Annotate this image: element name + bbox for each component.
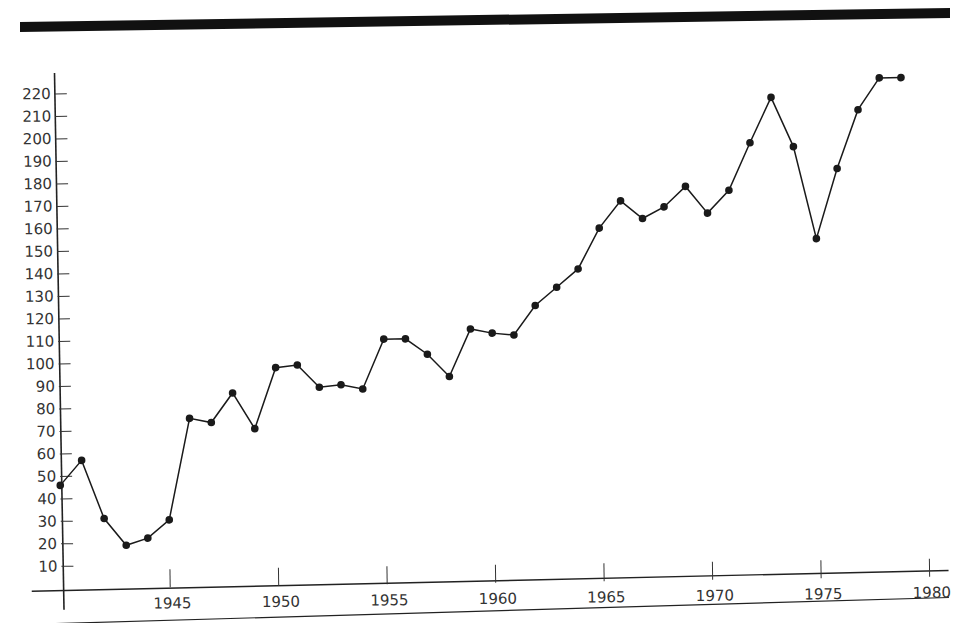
x-tick-label: 1970 — [696, 586, 734, 605]
data-line — [55, 78, 908, 547]
y-tick-label: 50 — [37, 467, 56, 485]
y-tick-label: 10 — [38, 557, 57, 575]
data-point — [272, 364, 280, 372]
data-point — [897, 74, 905, 82]
y-tick-label: 90 — [36, 377, 55, 395]
y-axis-ticks: 1020304050607080901001101201301401501601… — [22, 85, 73, 576]
x-tick-label: 1950 — [262, 593, 300, 612]
data-point — [488, 329, 496, 337]
data-point — [767, 94, 775, 102]
y-tick-label: 170 — [24, 197, 53, 215]
y-tick-label: 200 — [23, 130, 52, 148]
y-tick-label: 220 — [22, 85, 51, 103]
x-tick-label: 1945 — [153, 594, 191, 613]
y-tick-label: 210 — [22, 107, 51, 125]
y-tick-label: 40 — [37, 490, 56, 508]
line-chart: 1020304050607080901001101201301401501601… — [0, 0, 967, 623]
x-tick-label: 1955 — [370, 591, 408, 610]
x-tick-label: 1975 — [804, 585, 842, 604]
data-point — [833, 165, 841, 173]
data-point — [359, 385, 367, 393]
top-black-bar — [20, 8, 950, 32]
y-tick-label: 110 — [25, 332, 54, 350]
x-tick-label: 1960 — [479, 590, 517, 609]
y-tick-label: 60 — [37, 445, 56, 463]
data-point — [251, 425, 259, 433]
data-markers — [51, 74, 911, 550]
y-tick-label: 190 — [23, 152, 52, 170]
y-tick-label: 130 — [25, 287, 54, 305]
y-tick-label: 140 — [25, 265, 54, 283]
y-tick-label: 180 — [23, 175, 52, 193]
y-tick-label: 80 — [36, 400, 55, 418]
y-tick-label: 70 — [36, 422, 55, 440]
data-point — [746, 139, 754, 147]
x-tick-label: 1980 — [913, 583, 951, 602]
x-tick-label: 1965 — [587, 588, 625, 607]
y-tick-label: 120 — [25, 310, 54, 328]
data-point — [467, 325, 475, 333]
y-tick-label: 160 — [24, 220, 53, 238]
data-point — [186, 415, 194, 423]
y-tick-label: 150 — [24, 242, 53, 260]
y-tick-label: 100 — [26, 355, 55, 373]
data-point — [790, 143, 798, 151]
y-tick-label: 30 — [38, 512, 57, 530]
y-tick-label: 20 — [38, 535, 57, 553]
data-point — [337, 381, 345, 389]
data-point — [813, 235, 821, 243]
data-point — [380, 335, 388, 343]
